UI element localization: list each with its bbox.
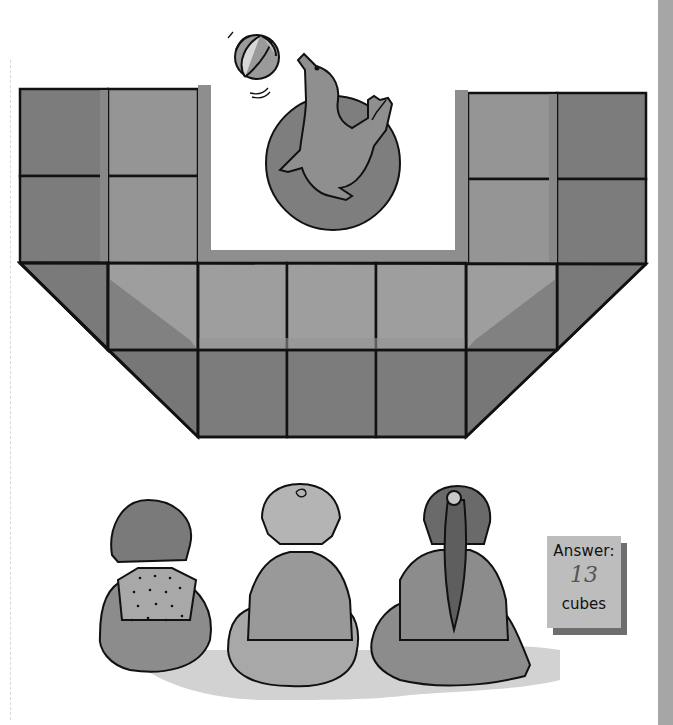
seal-illustration (266, 54, 400, 230)
hair-scrunchie (447, 491, 461, 505)
answer-box: Answer: 13 cubes (547, 536, 621, 628)
answer-label: Answer: (547, 542, 621, 560)
seal-eye (316, 67, 319, 70)
left-tower (20, 89, 198, 263)
child-boy (228, 484, 358, 686)
child-girl-bob (100, 500, 211, 672)
right-tower (468, 93, 646, 264)
answer-value: 13 (547, 562, 621, 587)
answer-unit: cubes (547, 595, 621, 613)
child-girl-ponytail (371, 486, 530, 686)
